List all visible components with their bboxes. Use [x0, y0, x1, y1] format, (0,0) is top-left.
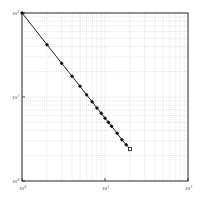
y-tick-exponent: 2 [18, 10, 20, 14]
data-series [20, 11, 132, 151]
y-tick-exponent: 0 [18, 178, 20, 182]
grid-lines [22, 13, 188, 181]
x-tick-exponent: 1 [108, 185, 110, 189]
x-tick-exponent: 0 [25, 185, 27, 189]
series-line [22, 13, 130, 149]
axis-ticks: 100101102100101102 [12, 10, 193, 192]
y-tick-exponent: 1 [18, 94, 20, 98]
x-tick-exponent: 2 [191, 185, 193, 189]
loglog-chart: 100101102100101102 [0, 0, 200, 201]
open-square-marker [128, 147, 131, 150]
